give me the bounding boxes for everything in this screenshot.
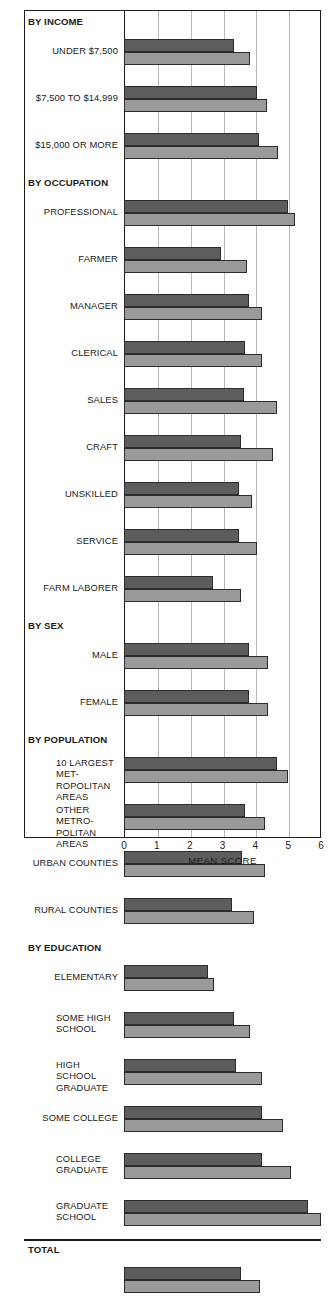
section-header-label: BY POPULATION (28, 734, 144, 745)
bar-light (124, 52, 250, 65)
chart-row: $7,500 TO $14,999 (24, 78, 321, 125)
category-label: RURAL COUNTIES (24, 904, 122, 915)
category-label: URBAN COUNTIES (24, 857, 122, 868)
bar-light (124, 213, 295, 226)
bar-light (124, 1072, 262, 1085)
category-label: CLERICAL (24, 347, 122, 358)
category-label: ELEMENTARY (24, 971, 122, 982)
bar-pair (124, 682, 321, 729)
bar-light (124, 1166, 291, 1179)
chart-row: RURAL COUNTIES (24, 890, 321, 937)
x-axis-title: MEAN SCORE (124, 855, 321, 866)
section-header-label: BY OCCUPATION (28, 177, 144, 188)
bar-dark (124, 1106, 262, 1119)
bar-dark (124, 482, 239, 495)
bar-dark (124, 86, 257, 99)
bar-light (124, 495, 252, 508)
bar-dark (124, 965, 208, 978)
bar-pair (124, 749, 321, 796)
bar-light (124, 354, 262, 367)
bar-light (124, 1213, 321, 1226)
category-label: HIGH SCHOOLGRADUATE (24, 1059, 122, 1093)
section-header-label: TOTAL (28, 1244, 144, 1255)
chart-row: MANAGER (24, 286, 321, 333)
x-tick-2: 2 (187, 840, 193, 851)
bar-light (124, 1025, 250, 1038)
bar-pair (124, 1259, 321, 1297)
category-label: PROFESSIONAL (24, 206, 122, 217)
section-header-label: BY EDUCATION (28, 942, 144, 953)
section-header-label: BY SEX (28, 620, 144, 631)
section-header-row: BY POPULATION (24, 729, 321, 749)
section-header-row: BY OCCUPATION (24, 172, 321, 192)
section-header-row: TOTAL (24, 1239, 321, 1259)
category-label: SALES (24, 394, 122, 405)
chart-row: SOME HIGHSCHOOL (24, 1004, 321, 1051)
category-label: FARM LABORER (24, 582, 122, 593)
chart-rows: BY INCOMEUNDER $7,500$7,500 TO $14,999$1… (24, 11, 321, 1297)
category-label: SOME HIGHSCHOOL (24, 1012, 122, 1035)
chart-row: CLERICAL (24, 333, 321, 380)
bar-pair (124, 635, 321, 682)
bar-light (124, 1280, 260, 1293)
chart-row: SOME COLLEGE (24, 1098, 321, 1145)
chart-row: UNDER $7,500 (24, 31, 321, 78)
bar-light (124, 770, 288, 783)
bar-dark (124, 133, 259, 146)
category-label: MANAGER (24, 300, 122, 311)
bar-dark (124, 247, 221, 260)
bar-dark (124, 1200, 308, 1213)
bar-light (124, 817, 265, 830)
bar-dark (124, 690, 249, 703)
bar-pair (124, 1098, 321, 1145)
chart-row: MALE (24, 635, 321, 682)
bar-dark (124, 435, 241, 448)
bar-pair (124, 1192, 321, 1239)
bar-dark (124, 576, 213, 589)
category-label: SERVICE (24, 535, 122, 546)
chart-row: FEMALE (24, 682, 321, 729)
bar-pair (124, 78, 321, 125)
bar-dark (124, 388, 244, 401)
category-label: COLLEGEGRADUATE (24, 1153, 122, 1176)
chart-row: OTHER METRO-POLITAN AREAS (24, 796, 321, 843)
chart-row: $15,000 OR MORE (24, 125, 321, 172)
bar-dark (124, 200, 288, 213)
section-header-row: BY INCOME (24, 11, 321, 31)
section-header-row: BY EDUCATION (24, 937, 321, 957)
bar-dark (124, 294, 249, 307)
category-label: GRADUATESCHOOL (24, 1200, 122, 1223)
bar-light (124, 978, 214, 991)
x-tick-0: 0 (121, 840, 127, 851)
bar-light (124, 146, 278, 159)
chart-row: HIGH SCHOOLGRADUATE (24, 1051, 321, 1098)
bar-dark (124, 643, 249, 656)
bar-light (124, 542, 257, 555)
chart-row: COLLEGEGRADUATE (24, 1145, 321, 1192)
bar-dark (124, 898, 232, 911)
bar-pair (124, 474, 321, 521)
bar-pair (124, 125, 321, 172)
category-label: UNDER $7,500 (24, 45, 122, 56)
chart-row: GRADUATESCHOOL (24, 1192, 321, 1239)
bar-pair (124, 1051, 321, 1098)
bar-dark (124, 1059, 236, 1072)
bar-light (124, 1119, 283, 1132)
bar-pair (124, 890, 321, 937)
bar-light (124, 448, 273, 461)
bar-pair (124, 286, 321, 333)
category-label: CRAFT (24, 441, 122, 452)
bar-light (124, 260, 247, 273)
bar-dark (124, 529, 239, 542)
bar-dark (124, 341, 245, 354)
bar-pair (124, 1145, 321, 1192)
bar-pair (124, 427, 321, 474)
chart-row: FARM LABORER (24, 568, 321, 615)
chart-row: SERVICE (24, 521, 321, 568)
bar-pair (124, 796, 321, 843)
bar-dark (124, 1153, 262, 1166)
bar-pair (124, 333, 321, 380)
bar-dark (124, 1267, 241, 1280)
bar-pair (124, 521, 321, 568)
